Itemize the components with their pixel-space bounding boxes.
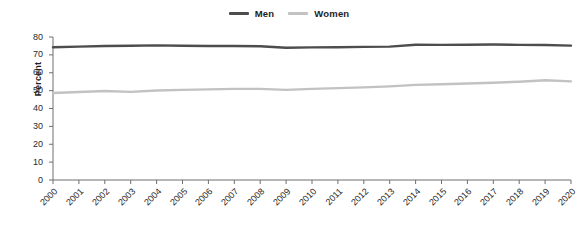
y-tick-label: 30	[19, 122, 43, 131]
y-tick-label: 50	[19, 86, 43, 95]
series-line-women	[53, 80, 571, 93]
line-chart: Men Women Percent 01020304050607080 2000…	[0, 0, 578, 225]
y-tick-label: 60	[19, 68, 43, 77]
y-tick-label: 20	[19, 140, 43, 149]
y-tick-label: 70	[19, 50, 43, 59]
y-tick-label: 10	[19, 158, 43, 167]
y-tick-label: 40	[19, 104, 43, 113]
plot-area: 01020304050607080 2000200120022003200420…	[0, 0, 578, 225]
y-tick-label: 0	[19, 176, 43, 185]
series-line-men	[53, 45, 571, 48]
y-tick-label: 80	[19, 33, 43, 42]
